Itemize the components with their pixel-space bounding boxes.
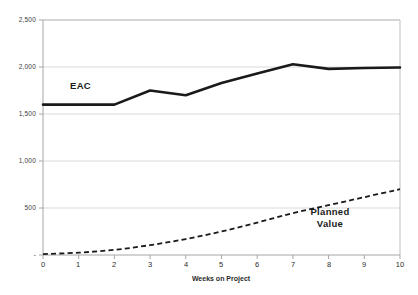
chart-plot-svg [0,0,418,295]
y-axis-ticks [39,20,43,255]
x-tick-label-1: 1 [68,260,88,269]
series-annotation-eac: EAC [70,80,91,91]
x-tick-label-9: 9 [354,260,374,269]
chart-container: 2,500 2,000 1,500 1,000 500 - 0 1 2 3 4 … [0,0,418,295]
y-tick-label-1000: 1,000 [4,157,36,164]
x-tick-label-4: 4 [176,260,196,269]
x-axis-ticks [43,255,400,259]
x-tick-label-6: 6 [247,260,267,269]
x-tick-label-3: 3 [140,260,160,269]
x-tick-label-2: 2 [104,260,124,269]
planned-value-line-1: Planned [299,206,361,218]
x-tick-label-10: 10 [390,260,410,269]
x-tick-label-5: 5 [211,260,231,269]
planned-value-line-2: Value [299,218,361,230]
y-tick-label-500: 500 [4,204,36,211]
y-tick-label-0: - [4,251,36,258]
x-tick-label-7: 7 [283,260,303,269]
y-tick-label-1500: 1,500 [4,110,36,117]
x-tick-label-8: 8 [319,260,339,269]
x-tick-label-0: 0 [33,260,53,269]
y-tick-label-2500: 2,500 [4,16,36,23]
y-tick-label-2000: 2,000 [4,63,36,70]
x-axis-title: Weeks on Project [141,275,301,282]
series-annotation-planned-value: Planned Value [299,206,361,230]
